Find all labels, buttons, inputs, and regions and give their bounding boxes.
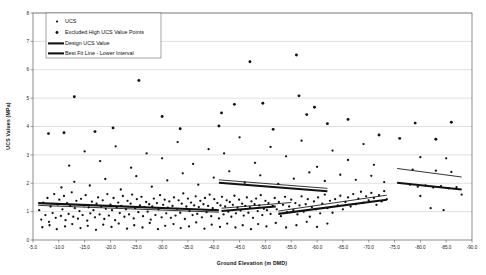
ucs-point (188, 225, 190, 227)
ucs-point (91, 201, 93, 203)
ucs-point (252, 217, 254, 219)
excluded-high-ucs-point (450, 121, 453, 124)
excluded-high-ucs-point (248, 60, 251, 63)
ucs-point (269, 213, 271, 215)
ucs-point (419, 156, 421, 158)
ucs-point (177, 199, 179, 201)
legend-marker-ucs (56, 20, 58, 22)
ucs-point (160, 216, 162, 218)
ucs-point (294, 202, 296, 204)
x-tick-label: -50.0 (260, 245, 271, 250)
ucs-point (440, 185, 442, 187)
ucs-point (326, 207, 328, 209)
ucs-point (290, 199, 292, 201)
ucs-point (411, 168, 413, 170)
ucs-point (286, 211, 288, 213)
excluded-high-ucs-data-points (47, 54, 453, 141)
ucs-point (133, 217, 135, 219)
ucs-point (86, 220, 88, 222)
y-tick-label: 0 (26, 238, 29, 243)
ucs-point (319, 212, 321, 214)
ucs-point (253, 203, 255, 205)
y-axis-tick-labels: 012345678 (26, 11, 29, 243)
y-tick-label: 2 (26, 181, 29, 186)
ucs-point (53, 193, 55, 195)
ucs-point (68, 165, 70, 167)
design-ucs-value-lines (38, 183, 462, 214)
ucs-point (223, 152, 225, 154)
ucs-point (58, 199, 60, 201)
x-tick-label: -60.0 (312, 245, 323, 250)
ucs-point (370, 192, 372, 194)
ucs-point (300, 195, 302, 197)
ucs-point (92, 209, 94, 211)
ucs-point (118, 222, 120, 224)
ucs-point (157, 228, 159, 230)
ucs-point (265, 225, 267, 227)
ucs-point (41, 226, 43, 228)
ucs-point (135, 175, 137, 177)
ucs-point (419, 195, 421, 197)
excluded-high-ucs-point (295, 54, 298, 57)
ucs-point (120, 188, 122, 190)
ucs-point (324, 180, 326, 182)
ucs-point (98, 213, 100, 215)
x-tick-label: -75.0 (389, 245, 400, 250)
ucs-point (172, 223, 174, 225)
ucs-point (75, 200, 77, 202)
ucs-point (180, 227, 182, 229)
ucs-point (164, 199, 166, 201)
ucs-point (300, 140, 302, 142)
ucs-point (190, 201, 192, 203)
ucs-point (130, 166, 132, 168)
ucs-point (267, 202, 269, 204)
ucs-point (232, 204, 234, 206)
excluded-high-ucs-point (378, 134, 381, 137)
ucs-point (126, 228, 128, 230)
ucs-point (69, 205, 71, 207)
excluded-high-ucs-point (414, 122, 417, 125)
ucs-point (110, 226, 112, 228)
ucs-point (250, 228, 252, 230)
ucs-point (179, 212, 181, 214)
y-tick-label: 4 (26, 124, 29, 129)
ucs-point (114, 219, 116, 221)
ucs-point (63, 195, 65, 197)
ucs-point (87, 225, 89, 227)
ucs-point (368, 199, 370, 201)
ucs-point (112, 197, 114, 199)
ucs-point (339, 174, 341, 176)
ucs-point (102, 224, 104, 226)
ucs-point (61, 208, 63, 210)
ucs-point (85, 194, 87, 196)
ucs-point (137, 211, 139, 213)
ucs-point (355, 179, 357, 181)
x-tick-label: -25.0 (131, 245, 142, 250)
ucs-point (373, 164, 375, 166)
ucs-point (278, 201, 280, 203)
ucs-point (199, 200, 201, 202)
y-tick-label: 7 (26, 39, 29, 44)
ucs-point (181, 203, 183, 205)
ucs-point (188, 210, 190, 212)
ucs-point (182, 172, 184, 174)
ucs-point (142, 215, 144, 217)
ucs-point (246, 196, 248, 198)
y-tick-label: 6 (26, 67, 29, 72)
ucs-point (317, 196, 319, 198)
excluded-high-ucs-point (217, 124, 220, 127)
ucs-point (151, 205, 153, 207)
ucs-point (274, 197, 276, 199)
ucs-point (461, 193, 463, 195)
ucs-point (77, 218, 79, 220)
ucs-point (126, 200, 128, 202)
excluded-high-ucs-point (137, 79, 140, 82)
x-tick-label: -30.0 (157, 245, 168, 250)
ucs-point (153, 197, 155, 199)
ucs-point (238, 136, 240, 138)
x-tick-label: -65.0 (338, 245, 349, 250)
ucs-point (271, 205, 273, 207)
ucs-point (140, 196, 142, 198)
ucs-point (56, 228, 58, 230)
ucs-point (442, 209, 444, 211)
